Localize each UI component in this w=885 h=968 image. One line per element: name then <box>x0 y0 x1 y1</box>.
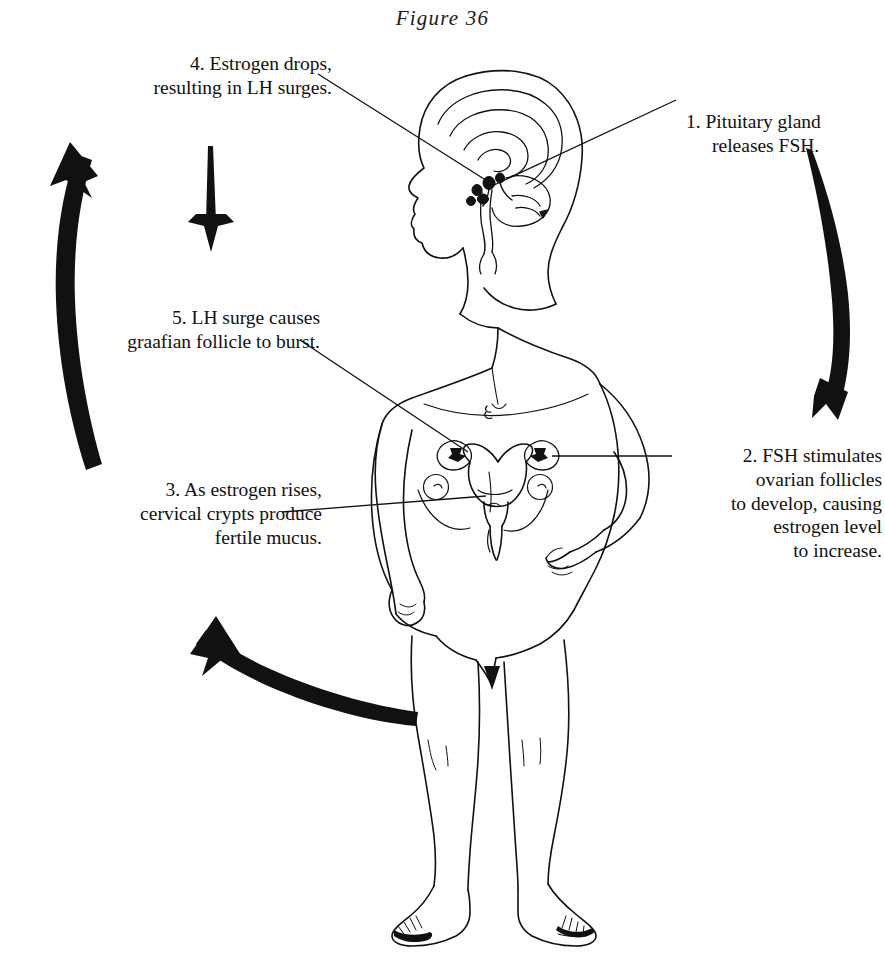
arrow-top-small-down <box>206 146 216 222</box>
uterus <box>463 444 532 560</box>
right-arm-on-hip <box>546 384 649 575</box>
callout-3-cervical-crypts-mucus: 3. As estrogen rises, cervical crypts pr… <box>26 478 322 549</box>
head-profile <box>409 71 582 368</box>
feet <box>392 884 596 946</box>
callout-4-estrogen-drops: 4. Estrogen drops, resulting in LH surge… <box>60 52 332 100</box>
callout-5-lh-surge-follicle-burst: 5. LH surge causes graafian follicle to … <box>52 306 320 354</box>
torso <box>375 328 619 636</box>
callout-1-line-2: releases FSH. <box>686 134 882 158</box>
arrow-top-small-head <box>188 214 234 252</box>
callout-2-fsh-stimulates-follicles: 2. FSH stimulates ovarian follicles to d… <box>680 444 882 563</box>
leader-line-4 <box>318 74 492 184</box>
right-ovary <box>525 441 559 470</box>
callout-1-pituitary-releases-fsh: 1. Pituitary gland releases FSH. <box>686 86 882 181</box>
legs <box>411 610 574 890</box>
callout-1-line-1: 1. Pituitary gland <box>686 111 821 132</box>
arrow-right-descending <box>806 148 850 398</box>
cycle-arrows <box>50 142 850 726</box>
figure-canvas: Figure 36 <box>0 0 885 968</box>
leader-line-5 <box>300 340 468 452</box>
left-ovary <box>437 441 471 470</box>
